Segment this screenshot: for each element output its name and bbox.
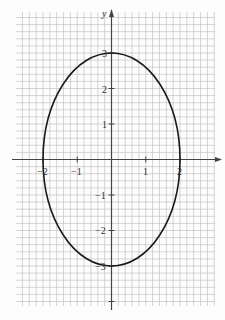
y-tick-label-2: 2 <box>102 84 107 95</box>
x-tick-label-1: 1 <box>143 166 148 177</box>
y-tick-label-neg1: −1 <box>95 190 106 201</box>
y-tick-label-neg2: −2 <box>95 225 106 236</box>
x-axis-arrow-icon <box>215 157 222 162</box>
y-axis-label: y <box>101 8 107 19</box>
y-tick-label-neg3: −3 <box>95 261 106 272</box>
x-tick-label-neg2: −2 <box>37 166 48 177</box>
y-tick-label-1: 1 <box>102 119 107 130</box>
graph-canvas: y −2 −1 1 2 3 2 1 −1 −2 −3 <box>0 0 225 320</box>
y-axis-arrow-icon <box>109 9 114 17</box>
x-tick-label-2: 2 <box>177 166 182 177</box>
x-tick-label-neg1: −1 <box>71 166 82 177</box>
y-tick-label-3: 3 <box>102 48 107 59</box>
